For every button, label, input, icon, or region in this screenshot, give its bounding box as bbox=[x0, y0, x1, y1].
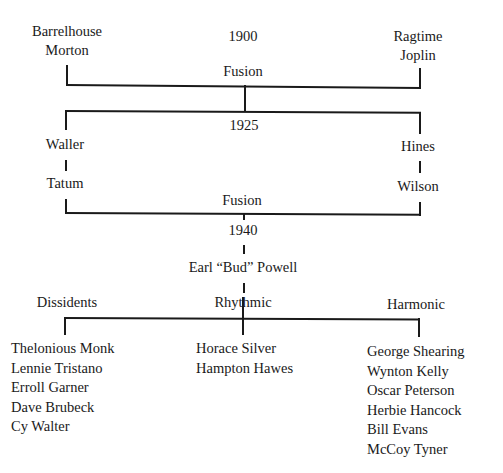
wilson-label: Wilson bbox=[397, 177, 438, 195]
rhythmic-stem bbox=[242, 297, 244, 335]
fusion-stem-2 bbox=[243, 213, 245, 220]
dissidents-list: Thelonious Monk Lennie Tristano Erroll G… bbox=[11, 339, 115, 437]
list-item: Wynton Kelly bbox=[367, 362, 465, 382]
hines-connector bbox=[419, 112, 421, 134]
year-1900: 1900 bbox=[229, 27, 258, 45]
fusion-label-2: Fusion bbox=[222, 191, 262, 209]
year-powell-connector bbox=[243, 245, 245, 254]
waller-tatum-connector bbox=[65, 160, 67, 171]
list-item: Erroll Garner bbox=[11, 378, 115, 398]
powell-branch-connector bbox=[243, 283, 245, 293]
waller-connector bbox=[65, 110, 67, 130]
branch-dissidents-label: Dissidents bbox=[37, 293, 97, 311]
fusion-stem-1 bbox=[244, 85, 246, 111]
list-item: Cy Walter bbox=[11, 417, 115, 437]
list-item: Bill Evans bbox=[367, 420, 465, 440]
list-item: Herbie Hancock bbox=[367, 401, 465, 421]
list-item: Thelonious Monk bbox=[11, 339, 115, 359]
list-item: Horace Silver bbox=[196, 339, 293, 359]
list-item: Hampton Hawes bbox=[196, 359, 293, 379]
harmonic-list: George Shearing Wynton Kelly Oscar Peter… bbox=[367, 342, 465, 459]
list-item: McCoy Tyner bbox=[367, 440, 465, 460]
year-1925: 1925 bbox=[230, 116, 259, 134]
ragtime-label: Ragtime bbox=[393, 27, 442, 45]
list-item: Lennie Tristano bbox=[11, 359, 115, 379]
hines-label: Hines bbox=[401, 137, 435, 155]
joplin-connector bbox=[419, 68, 421, 89]
hines-wilson-connector bbox=[419, 161, 421, 173]
powell-label: Earl “Bud” Powell bbox=[189, 258, 298, 276]
joplin-label: Joplin bbox=[400, 46, 435, 64]
harmonic-connector bbox=[418, 318, 420, 337]
tatum-label: Tatum bbox=[47, 174, 84, 192]
dissidents-connector bbox=[64, 317, 66, 335]
year-1940: 1940 bbox=[229, 221, 258, 239]
fusion-label-1: Fusion bbox=[223, 62, 263, 80]
morton-connector bbox=[66, 65, 68, 86]
waller-label: Waller bbox=[46, 135, 84, 153]
barrelhouse-label: Barrelhouse bbox=[32, 22, 102, 40]
branch-harmonic-label: Harmonic bbox=[387, 295, 445, 313]
rhythmic-list: Horace Silver Hampton Hawes bbox=[196, 339, 293, 378]
list-item: Dave Brubeck bbox=[11, 398, 115, 418]
split-bracket-1925 bbox=[65, 110, 421, 114]
list-item: George Shearing bbox=[367, 342, 465, 362]
list-item: Oscar Peterson bbox=[367, 381, 465, 401]
morton-label: Morton bbox=[45, 41, 89, 59]
